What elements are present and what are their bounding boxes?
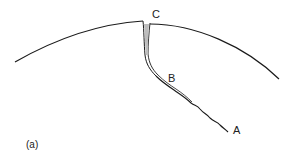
point-label-a: A bbox=[233, 125, 240, 136]
surface-arc-right bbox=[150, 24, 279, 79]
point-label-c: C bbox=[152, 9, 160, 20]
crack-diagram: C B A (a) bbox=[0, 0, 286, 162]
crack-path bbox=[156, 76, 228, 132]
surface-arc-left bbox=[15, 21, 143, 62]
diagram-canvas bbox=[0, 0, 286, 162]
panel-label: (a) bbox=[26, 140, 38, 150]
point-label-b: B bbox=[168, 73, 175, 84]
